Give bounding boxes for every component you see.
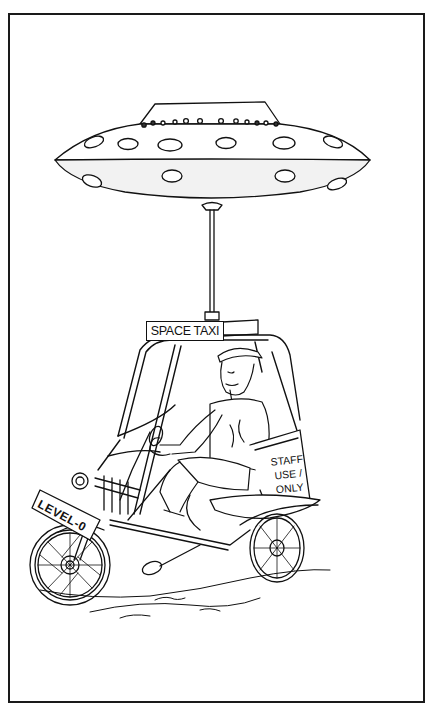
- space-taxi-illustration: [0, 0, 435, 713]
- front-wheel: [30, 520, 110, 605]
- saucer-pole: [205, 210, 219, 320]
- rear-wheel-spokes: [254, 518, 300, 578]
- horn: [141, 559, 164, 577]
- flying-saucer: [55, 102, 370, 210]
- sign-bracket: [222, 320, 258, 336]
- staff-use-only-sign: STAFF USE / ONLY: [270, 451, 307, 496]
- space-taxi-sign: SPACE TAXI: [146, 321, 224, 341]
